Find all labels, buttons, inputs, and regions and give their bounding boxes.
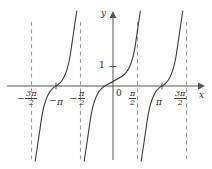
x-tick-label-neg-pi-2: −π2 [70, 90, 85, 108]
fraction-numerator: π [129, 90, 136, 98]
fraction-denominator: 2 [25, 98, 37, 107]
plot-canvas [0, 0, 212, 169]
y-tick-label-1: 1 [99, 61, 105, 70]
origin-label: 0 [116, 89, 122, 98]
minus-sign: − [70, 94, 78, 103]
y-axis-label: y [101, 9, 106, 18]
x-tick-label-neg-pi: −π [49, 92, 63, 108]
minus-sign: − [17, 94, 25, 103]
fraction-numerator: π [78, 90, 85, 98]
pi-symbol: π [156, 97, 162, 107]
x-tick-label-neg-3pi-2: −3π2 [17, 90, 37, 108]
x-tick-label-pi: π [156, 92, 162, 108]
x-axis-label: x [199, 91, 204, 100]
fraction-denominator: 2 [174, 98, 186, 107]
pi-symbol: π [57, 97, 63, 107]
x-tick-label-pi-2: π2 [129, 90, 136, 108]
fraction-numerator: 3π [174, 90, 186, 98]
fraction-denominator: 2 [129, 98, 136, 107]
y-axis-arrowhead [110, 11, 117, 18]
minus-sign: − [49, 96, 57, 105]
x-axis-arrowhead [198, 83, 205, 90]
tangent-function-figure: y x 0 1 −3π2 −π −π2 π2 π 3π2 [0, 0, 212, 169]
fraction-numerator: 3π [25, 90, 37, 98]
x-tick-label-3pi-2: 3π2 [174, 90, 186, 108]
fraction-denominator: 2 [78, 98, 85, 107]
